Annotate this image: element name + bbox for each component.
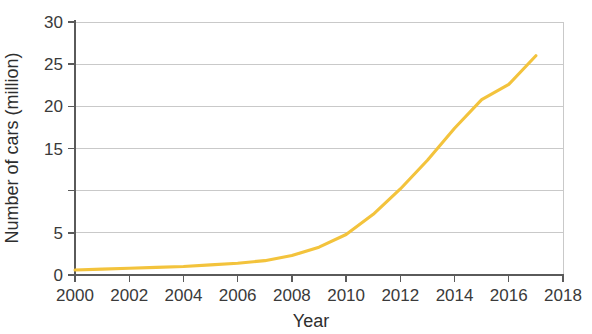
y-tick-label-25: 25 bbox=[44, 55, 63, 74]
x-tick-label-2008: 2008 bbox=[273, 286, 311, 305]
x-tick-label-2018: 2018 bbox=[544, 286, 582, 305]
x-tick-labels: 2000200220042006200820102012201420162018 bbox=[56, 286, 582, 305]
y-axis-title: Number of cars (million) bbox=[2, 52, 22, 243]
y-tick-label-0: 0 bbox=[54, 266, 63, 285]
chart-canvas: 3025201550 20002002200420062008201020122… bbox=[0, 0, 592, 334]
x-axis bbox=[74, 275, 564, 282]
x-tick-label-2014: 2014 bbox=[436, 286, 474, 305]
data-series-number-of-cars bbox=[75, 56, 536, 270]
y-axis bbox=[68, 20, 75, 276]
x-tick-label-2000: 2000 bbox=[56, 286, 94, 305]
x-tick-label-2016: 2016 bbox=[490, 286, 528, 305]
gridlines bbox=[75, 22, 563, 233]
y-tick-label-5: 5 bbox=[54, 224, 63, 243]
x-tick-label-2002: 2002 bbox=[110, 286, 148, 305]
x-tick-label-2004: 2004 bbox=[165, 286, 203, 305]
x-tick-label-2010: 2010 bbox=[327, 286, 365, 305]
y-tick-label-15: 15 bbox=[44, 140, 63, 159]
x-tick-label-2012: 2012 bbox=[381, 286, 419, 305]
y-tick-label-20: 20 bbox=[44, 97, 63, 116]
y-tick-labels: 3025201550 bbox=[44, 13, 63, 285]
y-tick-label-30: 30 bbox=[44, 13, 63, 32]
line-chart: 3025201550 20002002200420062008201020122… bbox=[0, 0, 592, 334]
x-axis-title: Year bbox=[293, 311, 329, 331]
x-tick-label-2006: 2006 bbox=[219, 286, 257, 305]
